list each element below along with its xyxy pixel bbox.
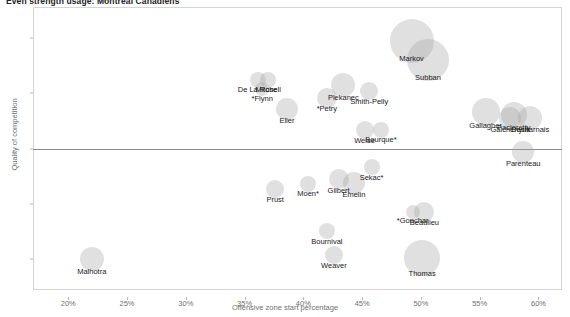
x-axis-tick-mark [245, 297, 246, 300]
x-axis-tick-mark [362, 297, 363, 300]
y-axis-tick-mark [30, 148, 33, 149]
x-axis-tick-mark [480, 297, 481, 300]
x-axis-tick-mark [303, 297, 304, 300]
y-axis-tick-mark [30, 203, 33, 204]
x-axis-tick-mark [127, 297, 128, 300]
axis-wrap: 1.00.50.0-0.5-1.020%25%30%35%40%45%50%55… [33, 7, 562, 290]
x-axis-label: Offensive zone start percentage [0, 303, 570, 312]
chart-title: Even strength usage: Montreal Canadiens [6, 0, 179, 6]
y-axis-label: Quality of competition [10, 65, 19, 205]
y-axis-tick-mark [30, 93, 33, 94]
chart-root: Even strength usage: Montreal Canadiens … [0, 0, 570, 317]
x-axis-tick-mark [68, 297, 69, 300]
y-axis-tick-mark [30, 259, 33, 260]
y-axis-tick-mark [30, 37, 33, 38]
x-axis-tick-mark [538, 297, 539, 300]
x-axis-tick-mark [186, 297, 187, 300]
x-axis-tick-mark [421, 297, 422, 300]
